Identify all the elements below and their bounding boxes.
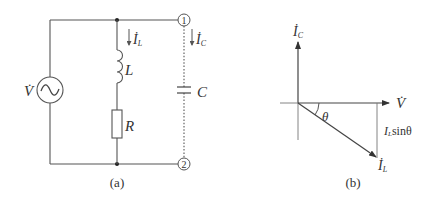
svg-text:2: 2: [182, 159, 187, 170]
angle-label: θ: [322, 109, 329, 124]
svg-text:1: 1: [182, 15, 187, 26]
phasor-label-v: V̇: [396, 95, 407, 111]
caption-b: (b): [345, 175, 360, 190]
current-label-ic: İC: [195, 32, 207, 48]
projection-label: ILsinθ: [383, 124, 412, 138]
inductor-label: L: [124, 62, 133, 78]
resistor-icon: [112, 110, 122, 138]
node-2: 2: [178, 158, 190, 170]
figure: V̇ İL L R 1 2 C: [0, 0, 437, 202]
phasor-label-ic: İC: [292, 24, 304, 40]
ac-source-icon: [37, 77, 63, 103]
phasor-il: [298, 103, 376, 157]
source-label: V̇: [24, 83, 35, 99]
caption-a: (a): [110, 175, 124, 190]
current-label-il: İL: [132, 32, 143, 48]
resistor-label: R: [124, 118, 134, 134]
circuit-diagram: V̇ İL L R 1 2 C: [24, 14, 208, 190]
capacitor-label: C: [197, 84, 208, 100]
inductor-icon: [117, 50, 123, 83]
capacitor-icon: [177, 87, 191, 93]
node-1: 1: [178, 14, 190, 26]
phasor-diagram: İC V̇ İL ILsinθ θ (b): [280, 24, 412, 190]
angle-arc: [315, 103, 319, 115]
phasor-label-il: İL: [377, 158, 388, 174]
